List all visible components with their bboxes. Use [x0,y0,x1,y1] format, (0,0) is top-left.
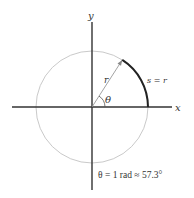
angle-label: θ [105,94,111,105]
arc-label: s = r [147,76,168,85]
caption: θ = 1 rad ≈ 57.3° [98,170,163,180]
y-axis-label: y [87,10,94,21]
radian-diagram: y x r θ s = r θ = 1 rad ≈ 57.3° [0,0,194,198]
x-axis-label: x [175,102,181,113]
arc-s [122,60,148,107]
radius-label: r [104,75,109,85]
arrowhead-icon [118,60,123,66]
